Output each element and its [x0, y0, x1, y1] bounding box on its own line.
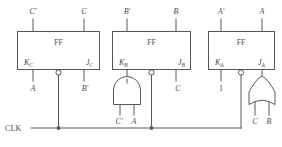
- label-ffa-k-input: 1: [219, 84, 223, 93]
- label-ffc-top-left: C': [29, 7, 36, 16]
- label-ffc-body: FF: [54, 38, 62, 47]
- label-ffa-top-right: A: [259, 7, 265, 16]
- label-ffc-top-right: C: [81, 7, 87, 16]
- label-ffa-k: KA: [214, 58, 224, 68]
- label-ffc-j-input: B': [82, 84, 89, 93]
- label-layer: C' C FF KC JC A B' B' B FF KB JB C C' A …: [0, 0, 282, 147]
- label-ffb-j-input: C: [175, 84, 181, 93]
- label-ffb-body: FF: [147, 38, 155, 47]
- label-and-gate-b-input-2: A: [131, 117, 137, 126]
- label-ffa-body: FF: [237, 38, 245, 47]
- label-or-gate-a-input-2: B: [267, 117, 272, 126]
- label-ffa-j: JA: [258, 58, 266, 68]
- label-ffa-top-left: A': [217, 7, 225, 16]
- label-clk: CLK: [5, 124, 22, 133]
- label-ffb-j: JB: [178, 58, 186, 68]
- label-and-gate-b-input-1: C': [115, 117, 122, 126]
- label-ffc-k: KC: [23, 58, 33, 68]
- label-ffc-j: JC: [86, 58, 94, 68]
- label-ffc-k-input: A: [30, 84, 36, 93]
- label-or-gate-a-input-1: C: [252, 117, 258, 126]
- label-ffb-top-right: B: [174, 7, 179, 16]
- label-ffb-k: KB: [118, 58, 128, 68]
- label-ffb-top-left: B': [124, 7, 131, 16]
- circuit-diagram: C' C FF KC JC A B' B' B FF KB JB C C' A …: [0, 0, 282, 147]
